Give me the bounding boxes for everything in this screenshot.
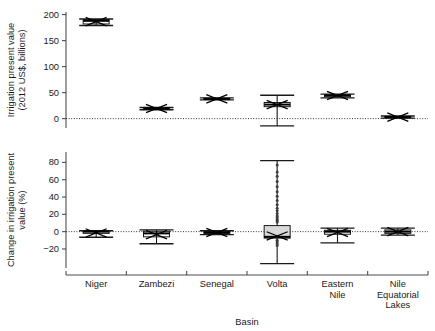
y-tick-label: 40 — [49, 192, 59, 202]
y-tick-label: 50 — [49, 88, 59, 98]
y-tick-label: 200 — [43, 10, 59, 20]
x-category-label-volta: Volta — [267, 279, 289, 289]
outlier-point — [276, 221, 279, 224]
y-axis-title-line: Change in irrigation present — [6, 152, 16, 267]
y-tick-label: 60 — [49, 175, 59, 185]
boxplot-nile-equatorial-lakes — [381, 227, 415, 235]
outlier-point — [276, 212, 279, 215]
outlier-point — [276, 209, 279, 212]
outlier-point — [276, 195, 279, 198]
outlier-point — [276, 190, 279, 193]
outlier-point — [276, 175, 279, 178]
outlier-point — [276, 180, 279, 183]
outlier-point — [276, 170, 279, 173]
x-category-label-eastern-nile: Eastern — [321, 279, 353, 289]
x-category-label-nile-equatorial-lakes: Lakes — [385, 300, 410, 310]
y-axis-title-line: (2012 US$, billions) — [17, 29, 27, 110]
y-tick-label: 80 — [49, 157, 59, 167]
y-tick-label: 150 — [43, 36, 59, 46]
outlier-point — [276, 185, 279, 188]
x-category-label-eastern-nile: Nile — [329, 290, 345, 300]
y-tick-label: 20 — [49, 209, 59, 219]
x-category-label-zambezi: Zambezi — [139, 279, 175, 289]
x-category-label-nile-equatorial-lakes: Equatorial — [377, 290, 419, 300]
y-tick-label: 100 — [43, 62, 59, 72]
x-category-label-nile-equatorial-lakes: Nile — [390, 279, 406, 289]
x-axis-title: Basin — [235, 317, 258, 327]
y-axis-title-line: value (%) — [17, 190, 27, 229]
outlier-point — [276, 244, 279, 247]
y-axis-title-line: Irrigation present value — [6, 23, 16, 118]
x-category-label-senegal: Senegal — [200, 279, 234, 289]
outlier-point — [276, 199, 279, 202]
x-category-label-niger: Niger — [85, 279, 107, 289]
figure-container: 050100150200 −20020406080 NigerZambeziSe… — [0, 0, 435, 331]
outlier-point — [276, 203, 279, 206]
top-panel-y-axis-title: Irrigation present value(2012 US$, billi… — [6, 23, 27, 118]
y-tick-label: −20 — [43, 244, 59, 254]
y-tick-label: 0 — [54, 227, 59, 237]
outlier-point — [276, 163, 279, 166]
y-tick-label: 0 — [54, 114, 59, 124]
boxplot-figure: 050100150200 −20020406080 NigerZambeziSe… — [0, 0, 435, 331]
outlier-point — [276, 207, 279, 210]
